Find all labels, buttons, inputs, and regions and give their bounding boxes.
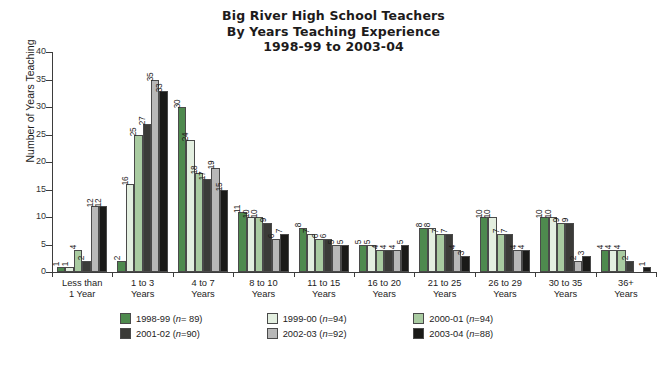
category-label: 1 to 3Years — [112, 278, 172, 308]
bar[interactable] — [203, 179, 211, 273]
bar[interactable] — [359, 245, 367, 273]
x-tick — [112, 272, 113, 277]
bar-value-label: 4 — [448, 245, 457, 249]
bar[interactable] — [299, 228, 307, 272]
bar[interactable] — [126, 184, 134, 272]
bar-slot: 4 — [601, 52, 609, 272]
bar[interactable] — [617, 250, 625, 272]
legend-swatch — [267, 313, 278, 324]
bar[interactable] — [601, 250, 609, 272]
bar-slot: 25 — [134, 52, 142, 272]
bar-value-label: 9 — [259, 217, 268, 221]
bar-value-label: 4 — [613, 245, 622, 249]
bar[interactable] — [272, 239, 280, 272]
bar[interactable] — [117, 261, 125, 272]
legend-item[interactable]: 2003-04 (n=88) — [413, 328, 560, 339]
category-label-line: 1 to 3 — [112, 278, 172, 289]
category-label-line: 30 to 35 — [535, 278, 595, 289]
bar[interactable] — [549, 217, 557, 272]
bar[interactable] — [393, 250, 401, 272]
bar-groups: 1142121221625273533302418171915111010967… — [52, 52, 656, 272]
bar[interactable] — [159, 91, 167, 273]
bar-value-label: 30 — [173, 100, 182, 109]
bar[interactable] — [609, 250, 617, 272]
bar-value-label: 27 — [138, 116, 147, 125]
chart-container: Big River High School Teachers By Years … — [0, 0, 667, 371]
bar[interactable] — [513, 250, 521, 272]
bar-slot: 33 — [159, 52, 167, 272]
bar-slot: 4 — [384, 52, 392, 272]
bar[interactable] — [263, 223, 271, 273]
category-label: 11 to 15Years — [294, 278, 354, 308]
bar[interactable] — [186, 140, 194, 272]
bar-slot: 8 — [419, 52, 427, 272]
bar-slot: 2 — [626, 52, 634, 272]
legend-item[interactable]: 1999-00 (n=94) — [267, 313, 414, 324]
bar[interactable] — [461, 256, 469, 273]
bar[interactable] — [307, 234, 315, 273]
bar[interactable] — [565, 223, 573, 273]
bar-value-label: 2 — [621, 256, 630, 260]
bar[interactable] — [419, 228, 427, 272]
bar-group: 21625273533 — [112, 52, 172, 272]
bar[interactable] — [220, 190, 228, 273]
bar-slot: 4 — [74, 52, 82, 272]
bar[interactable] — [247, 217, 255, 272]
bar[interactable] — [626, 261, 634, 272]
bar-value-label: 3 — [577, 250, 586, 254]
category-label: 36+Years — [596, 278, 656, 308]
bar-slot: 10 — [255, 52, 263, 272]
bar[interactable] — [151, 80, 159, 273]
bar[interactable] — [315, 239, 323, 272]
bar[interactable] — [557, 223, 565, 273]
bar[interactable] — [332, 245, 340, 273]
bar-slot: 5 — [367, 52, 375, 272]
legend-item[interactable]: 2002-03 (n=92) — [267, 328, 414, 339]
bar[interactable] — [238, 212, 246, 273]
bar[interactable] — [280, 234, 288, 273]
bar[interactable] — [488, 217, 496, 272]
bar-slot: 1 — [643, 52, 651, 272]
x-axis-category-labels: Less than1 Year1 to 3Years4 to 7Years8 t… — [52, 278, 656, 308]
legend-item[interactable]: 2001-02 (n=90) — [120, 328, 267, 339]
bar[interactable] — [91, 206, 99, 272]
bar[interactable] — [522, 250, 530, 272]
bar-slot: 9 — [557, 52, 565, 272]
bar[interactable] — [540, 217, 548, 272]
bar-slot: 7 — [505, 52, 513, 272]
category-label-line: 8 to 10 — [233, 278, 293, 289]
bar-value-label: 4 — [69, 245, 78, 249]
bar[interactable] — [401, 245, 409, 273]
bar[interactable] — [143, 124, 151, 273]
bar[interactable] — [376, 250, 384, 272]
bar[interactable] — [82, 261, 90, 272]
bar[interactable] — [497, 234, 505, 273]
legend-item[interactable]: 1998-99 (n= 89) — [120, 313, 267, 324]
legend-item[interactable]: 2000-01 (n=94) — [413, 313, 560, 324]
x-tick — [52, 272, 53, 277]
x-tick — [173, 272, 174, 277]
x-tick — [414, 272, 415, 277]
bar[interactable] — [134, 135, 142, 273]
category-label: 4 to 7Years — [173, 278, 233, 308]
bar[interactable] — [582, 256, 590, 273]
bar-slot: 3 — [582, 52, 590, 272]
bar[interactable] — [74, 250, 82, 272]
bar[interactable] — [384, 250, 392, 272]
bar-slot: 15 — [220, 52, 228, 272]
bar[interactable] — [428, 228, 436, 272]
bar[interactable] — [574, 261, 582, 272]
bar[interactable] — [480, 217, 488, 272]
bar[interactable] — [505, 234, 513, 273]
bar[interactable] — [195, 173, 203, 272]
bar[interactable] — [255, 217, 263, 272]
bar[interactable] — [99, 206, 107, 272]
bar-group: 876655 — [294, 52, 354, 272]
bar[interactable] — [436, 234, 444, 273]
category-label-line: Years — [173, 289, 233, 300]
bar[interactable] — [341, 245, 349, 273]
category-label-line: 16 to 20 — [354, 278, 414, 289]
bar-group: 10109923 — [535, 52, 595, 272]
bar[interactable] — [445, 234, 453, 273]
x-tick — [475, 272, 476, 277]
